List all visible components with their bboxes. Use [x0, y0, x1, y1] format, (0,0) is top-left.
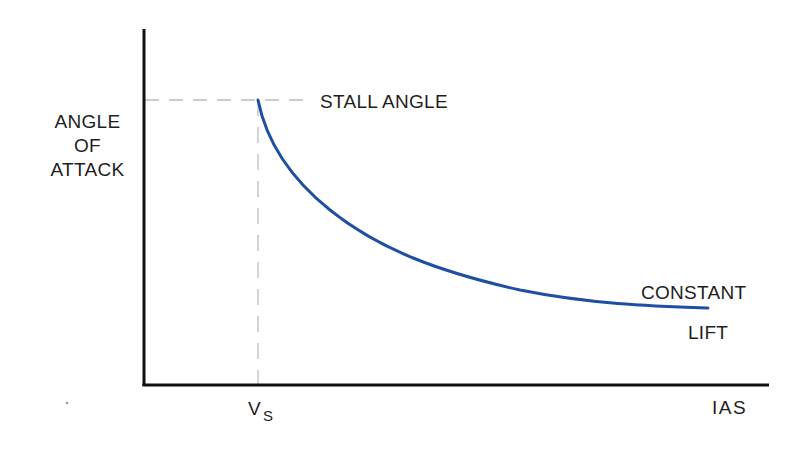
lift-label: LIFT — [688, 322, 728, 344]
diagram-canvas — [0, 0, 810, 450]
constant-label: CONSTANT — [641, 282, 747, 304]
y-axis-label-line-1: ANGLE — [40, 110, 135, 134]
y-axis-label-line-3: ATTACK — [40, 158, 135, 182]
vs-tick-label: VS — [248, 398, 273, 427]
x-axis-label: IAS — [712, 397, 747, 419]
vs-main: V — [248, 398, 261, 419]
y-axis-label-line-2: OF — [40, 134, 135, 158]
constant-lift-curve — [258, 100, 708, 308]
stall-angle-label: STALL ANGLE — [320, 91, 448, 113]
vs-subscript: S — [263, 407, 273, 424]
y-axis-label: ANGLE OF ATTACK — [40, 110, 135, 182]
stray-dot — [66, 402, 69, 405]
